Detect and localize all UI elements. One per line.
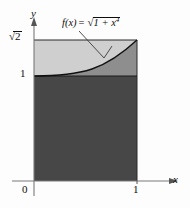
area-under-curve-figure: y x √2 1 0 1 f(x)=√1 + x4: [0, 0, 190, 208]
region-unit-square: [34, 76, 137, 181]
x-axis-label: x: [173, 174, 178, 185]
origin-label: 0: [22, 184, 28, 195]
function-name: f(x): [62, 17, 77, 28]
radicand-expression: 1 + x4: [93, 17, 121, 29]
x-tick-label-one: 1: [133, 184, 139, 195]
function-equation-label: f(x)=√1 + x4: [62, 17, 120, 29]
radicand-two: 2: [15, 31, 21, 42]
y-tick-label-sqrt2: √2: [8, 31, 21, 42]
vinculum-bar: [13, 31, 22, 32]
radicand-text: 1 + x: [94, 17, 116, 28]
y-axis-label: y: [31, 8, 36, 19]
equals-sign: =: [77, 17, 87, 28]
plot-canvas: [0, 0, 190, 208]
exponent-four: 4: [116, 15, 120, 23]
square-root-group: √1 + x4: [88, 17, 121, 29]
radical-group: √2: [8, 31, 21, 42]
y-tick-label-one: 1: [20, 68, 26, 79]
